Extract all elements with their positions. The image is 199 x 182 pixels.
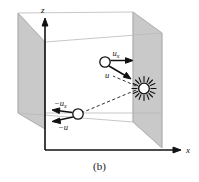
lower-particle [73, 109, 83, 119]
x-axis-label: x [185, 145, 190, 155]
upper-u-arrow [109, 66, 131, 79]
z-axis-arrowhead [42, 18, 48, 26]
left-shaded-panel [18, 13, 45, 129]
lower-neg-u-label: −u [58, 122, 68, 132]
upper-u-label: u [105, 70, 109, 80]
upper-ux-arrow [111, 58, 134, 64]
lower-neg-ux-label: −ux [54, 98, 67, 109]
upper-particle [100, 57, 110, 67]
physics-diagram: z x [0, 0, 199, 182]
z-axis-label: z [40, 5, 45, 15]
upper-particle-group: ux u [100, 48, 133, 80]
upper-ux-label: ux [113, 48, 120, 59]
light-source-bulb [139, 83, 150, 94]
light-ray-paths [81, 76, 141, 113]
ray-to-lower-particle [81, 88, 141, 113]
light-source-starburst [132, 77, 156, 101]
lower-particle-group: −ux −u [52, 98, 83, 132]
x-axis-arrowhead [173, 147, 181, 153]
figure-caption: (b) [0, 160, 199, 172]
figure-container: z x [0, 0, 199, 182]
